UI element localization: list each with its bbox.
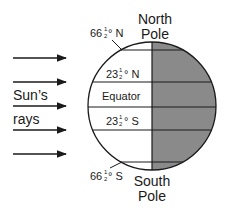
antarctic-suffix: ° S [108,170,123,182]
capricorn-whole: 23 [106,115,118,127]
equator-label: Equator [102,90,141,102]
sun-rays-label-line1: Sun’s [13,87,48,103]
south-pole-label-line1: South [134,173,171,189]
arctic-circle-label: 66 1 2 ° N [90,26,123,39]
south-pole-label-line2: Pole [138,188,166,204]
sun-rays-label-line2: rays [13,111,39,127]
sun-rays [13,58,66,154]
capricorn-suffix: ° S [124,115,139,127]
antarctic-circle-label: 66 1 2 ° S [90,169,123,182]
arctic-suffix: ° N [108,27,123,39]
cancer-suffix: ° N [124,68,139,80]
antarctic-leader-line [110,162,122,168]
north-pole-label-line1: North [138,11,172,27]
day-side [88,40,152,172]
antarctic-whole: 66 [90,170,102,182]
arctic-whole: 66 [90,27,102,39]
north-pole-label-line2: Pole [141,26,169,42]
globe [80,40,225,172]
cancer-whole: 23 [106,68,118,80]
arctic-leader-line [112,40,122,50]
night-side [152,40,220,172]
earth-sunlight-diagram: Sun’s rays North Pole South Pole 66 1 2 … [0,0,227,208]
